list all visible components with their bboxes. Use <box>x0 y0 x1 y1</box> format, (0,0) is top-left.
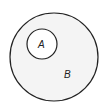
euler-diagram: A B <box>0 0 103 109</box>
set-a-label: A <box>37 39 45 50</box>
set-b-label: B <box>64 69 71 80</box>
set-b-circle <box>10 13 98 101</box>
